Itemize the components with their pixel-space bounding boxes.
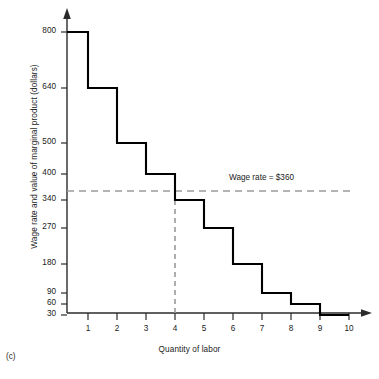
y-tick-label-340: 340 [22, 194, 56, 203]
vmp-step-curve [67, 32, 349, 315]
chart-figure: Wage rate and value of marginal product … [0, 0, 379, 379]
y-axis-ticks [61, 32, 67, 315]
y-tick-label-270: 270 [22, 222, 56, 231]
x-tick-label-3: 3 [136, 324, 156, 333]
y-tick-label-640: 640 [22, 82, 56, 91]
y-axis [63, 8, 71, 313]
x-tick-label-9: 9 [310, 324, 330, 333]
x-tick-label-10: 10 [339, 324, 359, 333]
y-tick-label-60: 60 [22, 298, 56, 307]
x-tick-label-2: 2 [107, 324, 127, 333]
y-tick-label-180: 180 [22, 258, 56, 267]
y-tick-label-800: 800 [22, 26, 56, 35]
x-tick-label-8: 8 [281, 324, 301, 333]
y-tick-label-500: 500 [22, 137, 56, 146]
y-tick-label-30: 30 [22, 309, 56, 318]
chart-plot-area [0, 0, 379, 379]
x-axis-label: Quantity of labor [0, 345, 379, 354]
x-tick-label-4: 4 [165, 324, 185, 333]
x-tick-label-6: 6 [223, 324, 243, 333]
x-axis-ticks [88, 313, 349, 320]
panel-label: (c) [6, 352, 16, 361]
x-tick-label-5: 5 [194, 324, 214, 333]
y-tick-label-400: 400 [22, 168, 56, 177]
y-tick-label-90: 90 [22, 287, 56, 296]
x-tick-label-7: 7 [252, 324, 272, 333]
y-axis-label: Wage rate and value of marginal product … [30, 27, 39, 287]
x-tick-label-1: 1 [78, 324, 98, 333]
wage-rate-annotation: Wage rate = $360 [229, 173, 294, 182]
